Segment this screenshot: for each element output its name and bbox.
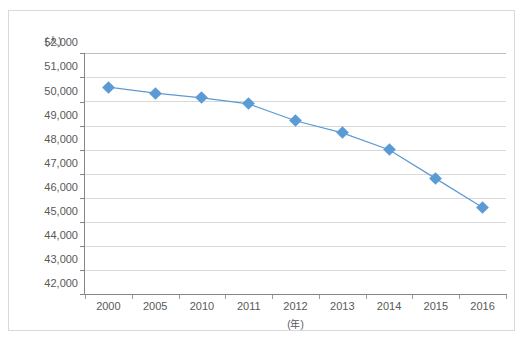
y-tick-mark: [80, 174, 84, 175]
data-point-marker: [289, 114, 302, 127]
y-tick-mark: [80, 126, 84, 127]
data-point-marker: [336, 126, 349, 139]
y-tick-mark: [80, 77, 84, 78]
y-tick-mark: [80, 102, 84, 103]
data-point-marker: [383, 143, 396, 156]
data-point-marker: [196, 92, 209, 105]
data-point-marker: [242, 98, 255, 111]
y-tick-mark: [80, 294, 84, 295]
data-point-marker: [149, 87, 162, 100]
y-tick-mark: [80, 53, 84, 54]
series-markers: [1, 1, 524, 339]
chart-frame: (人) 52,00051,00050,00049,00048,00047,000…: [8, 10, 515, 331]
y-tick-mark: [80, 222, 84, 223]
y-tick-mark: [80, 246, 84, 247]
y-tick-mark: [80, 150, 84, 151]
data-point-marker: [476, 201, 489, 214]
y-tick-mark: [80, 198, 84, 199]
data-point-marker: [102, 81, 115, 94]
y-tick-mark: [80, 270, 84, 271]
data-point-marker: [429, 172, 442, 185]
